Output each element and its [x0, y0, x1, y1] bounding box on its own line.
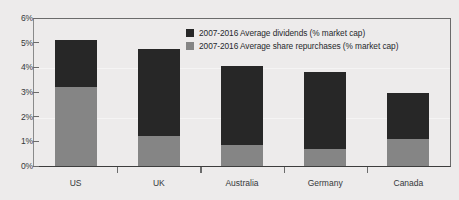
bar-segment-dividends[interactable] — [55, 40, 97, 87]
y-axis-tick-label: 5% — [21, 38, 33, 48]
x-axis-category-us: US — [34, 167, 117, 188]
y-axis: 6%5%4%3%2%1%0% — [0, 12, 33, 174]
y-axis-tick-label: 3% — [21, 87, 33, 97]
y-axis-tick: 4% — [21, 61, 33, 73]
x-axis-separator — [367, 167, 368, 173]
y-axis-tick: 1% — [21, 135, 33, 147]
bar-segment-dividends[interactable] — [138, 49, 180, 137]
bar-segment-repurchases[interactable] — [387, 139, 429, 166]
x-axis-category-label: Canada — [367, 178, 450, 188]
x-axis-category-uk: UK — [117, 167, 200, 188]
y-axis-tick-label: 4% — [21, 62, 33, 72]
bar-segment-dividends[interactable] — [387, 93, 429, 139]
stacked-bar-chart: 6%5%4%3%2%1%0% USUKAustraliaGermanyCanad… — [0, 0, 459, 200]
y-axis-tick-label: 2% — [21, 112, 33, 122]
bar-group[interactable] — [34, 18, 117, 166]
x-axis-category-canada: Canada — [367, 167, 450, 188]
y-axis-tick: 0% — [21, 160, 33, 172]
bar-segment-repurchases[interactable] — [304, 149, 346, 166]
bar-segment-repurchases[interactable] — [55, 87, 97, 166]
x-axis-category-label: UK — [117, 178, 200, 188]
bar-segment-repurchases[interactable] — [221, 145, 263, 166]
x-axis-separator — [284, 167, 285, 173]
legend-item-label: 2007-2016 Average dividends (% market ca… — [199, 28, 365, 38]
x-axis-category-label: US — [34, 178, 117, 188]
y-axis-tick: 2% — [21, 111, 33, 123]
bar-segment-dividends[interactable] — [304, 72, 346, 148]
bar-stack[interactable] — [387, 93, 429, 166]
bar-segment-dividends[interactable] — [221, 66, 263, 145]
x-axis-separator — [117, 167, 118, 173]
x-axis-separator — [200, 167, 201, 173]
x-axis: USUKAustraliaGermanyCanada — [34, 167, 450, 197]
x-axis-category-label: Germany — [284, 178, 367, 188]
bar-stack[interactable] — [304, 72, 346, 166]
y-axis-tick-label: 0% — [21, 161, 33, 171]
bar-segment-repurchases[interactable] — [138, 136, 180, 166]
legend-item[interactable]: 2007-2016 Average share repurchases (% m… — [186, 40, 398, 51]
y-axis-tick: 5% — [21, 37, 33, 49]
bar-stack[interactable] — [221, 66, 263, 166]
x-axis-category-australia: Australia — [200, 167, 283, 188]
dark-square-swatch — [186, 29, 194, 37]
x-axis-category-germany: Germany — [284, 167, 367, 188]
y-axis-tick: 6% — [21, 12, 33, 24]
bar-stack[interactable] — [138, 49, 180, 166]
chart-legend: 2007-2016 Average dividends (% market ca… — [186, 27, 398, 53]
y-axis-tick: 3% — [21, 86, 33, 98]
legend-item[interactable]: 2007-2016 Average dividends (% market ca… — [186, 27, 398, 38]
y-axis-tick-label: 1% — [21, 136, 33, 146]
bar-stack[interactable] — [55, 40, 97, 166]
gray-square-swatch — [186, 42, 194, 50]
x-axis-category-label: Australia — [200, 178, 283, 188]
legend-item-label: 2007-2016 Average share repurchases (% m… — [199, 41, 398, 51]
y-axis-tick-label: 6% — [21, 13, 33, 23]
